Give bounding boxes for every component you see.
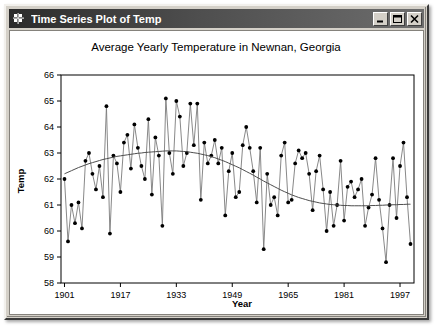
data-point-marker [286,201,290,205]
data-point-marker [91,172,95,176]
data-point-marker [321,188,325,192]
data-point-marker [262,247,266,251]
data-point-marker [87,151,91,155]
data-point-marker [409,242,413,246]
data-point-marker [220,146,224,150]
data-point-marker [206,162,210,166]
y-tick-label: 61 [44,200,54,210]
data-point-marker [199,198,203,202]
y-tick-label: 66 [44,70,54,80]
data-point-marker [360,177,364,181]
x-tick-label: 1965 [278,290,298,300]
data-point-marker [143,177,147,181]
data-point-marker [342,219,346,223]
data-point-marker [80,227,84,231]
data-point-marker [192,143,196,147]
close-icon [408,13,421,25]
data-point-marker [363,224,367,228]
data-point-marker [105,104,109,108]
data-point-marker [272,195,276,199]
data-point-marker [174,99,178,103]
data-point-marker [73,221,77,225]
maximize-button[interactable] [390,12,405,26]
data-point-marker [300,156,304,160]
y-axis: 585960616263646566 [44,70,61,288]
data-point-marker [202,141,206,145]
data-point-marker [171,172,175,176]
data-point-marker [265,172,269,176]
minimize-icon [374,13,387,25]
data-point-marker [122,141,126,145]
y-tick-label: 58 [44,278,54,288]
data-point-marker [328,190,332,194]
data-point-marker [115,162,119,166]
data-point-marker [297,149,301,153]
data-point-marker [227,169,231,173]
data-point-marker [150,193,154,197]
data-point-marker [178,115,182,119]
data-point-marker [126,133,130,137]
data-point-marker [318,154,322,158]
data-point-marker [349,180,353,184]
y-tick-label: 59 [44,252,54,262]
close-button[interactable] [407,12,422,26]
data-point-marker [405,195,409,199]
data-point-marker [381,227,385,231]
data-point-marker [293,162,297,166]
y-tick-label: 64 [44,122,54,132]
data-point-marker [66,240,70,244]
data-point-marker [258,146,262,150]
data-point-marker [157,154,161,158]
x-tick-label: 1933 [166,290,186,300]
y-axis-title: Temp [15,168,26,193]
data-point-marker [395,216,399,220]
data-point-marker [160,224,164,228]
data-point-marker [402,141,406,145]
data-point-marker [188,102,192,106]
data-point-marker [70,203,74,207]
data-point-marker [164,97,168,101]
data-point-marker [269,203,273,207]
data-point-marker [153,136,157,140]
data-point-marker [84,159,88,163]
data-point-marker [181,164,185,168]
window-titlebar[interactable]: Time Series Plot of Temp [9,9,424,28]
data-point-marker [63,177,67,181]
data-point-marker [133,123,137,127]
data-point-marker [353,195,357,199]
x-tick-label: 1997 [390,290,410,300]
x-axis: 1901191719331949196519811997 [54,283,410,300]
data-point-marker [279,154,283,158]
data-point-marker [307,172,311,176]
data-point-marker [244,125,248,129]
data-point-marker [139,164,143,168]
data-point-marker [391,156,395,160]
data-point-marker [136,146,140,150]
data-point-marker [311,208,315,212]
data-point-marker [283,141,287,145]
x-tick-label: 1901 [54,290,74,300]
minimize-button[interactable] [373,12,388,26]
grid-chart-icon [13,12,26,25]
y-tick-label: 60 [44,226,54,236]
data-point-marker [213,138,217,142]
data-point-marker [98,164,102,168]
data-point-marker [398,164,402,168]
chart-title: Average Yearly Temperature in Newnan, Ge… [91,41,341,53]
data-point-marker [237,190,241,194]
data-point-marker [146,117,150,121]
data-point-marker [377,198,381,202]
plot-window: Time Series Plot of Temp Average Yearly … [4,4,429,320]
data-point-marker [167,151,171,155]
data-point-marker [241,143,245,147]
data-point-marker [77,201,81,205]
plot-client-area: Average Yearly Temperature in Newnan, Ge… [9,30,424,315]
data-point-marker [248,146,252,150]
data-point-marker [129,167,133,171]
data-point-marker [384,260,388,264]
data-point-marker [276,214,280,218]
data-point-marker [223,214,227,218]
data-point-marker [230,151,234,155]
data-point-marker [119,190,123,194]
data-point-marker [325,229,329,233]
